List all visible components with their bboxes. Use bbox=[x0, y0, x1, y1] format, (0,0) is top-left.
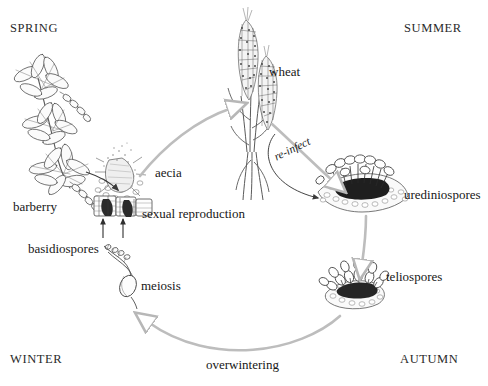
basidium-illustration bbox=[104, 244, 139, 309]
cycle-arrows bbox=[140, 108, 366, 350]
arrow-aecia-to-wheat bbox=[140, 108, 232, 176]
label-barberry: barberry bbox=[13, 200, 57, 213]
label-sexual-reproduction: sexual reproduction bbox=[142, 207, 245, 220]
aecia-illustration bbox=[94, 142, 146, 200]
season-label-winter: WINTER bbox=[10, 353, 62, 366]
life-cycle-diagram: SPRING SUMMER WINTER AUTUMN barberry aec… bbox=[0, 0, 488, 386]
urediniospores-illustration bbox=[314, 155, 408, 212]
label-basidiospores: basidiospores bbox=[28, 242, 99, 255]
label-urediniospores: urediniospores bbox=[404, 188, 481, 201]
teliospores-illustration bbox=[318, 258, 391, 309]
season-label-summer: SUMMER bbox=[404, 22, 462, 35]
season-label-spring: SPRING bbox=[10, 22, 58, 35]
season-label-autumn: AUTUMN bbox=[400, 353, 458, 366]
label-teliospores: teliospores bbox=[386, 270, 442, 283]
barberry-illustration bbox=[12, 52, 100, 211]
arrow-urediniospores-to-teliospores bbox=[362, 216, 366, 264]
label-overwintering: overwintering bbox=[206, 358, 279, 371]
label-aecia: aecia bbox=[155, 166, 182, 179]
label-wheat: wheat bbox=[269, 65, 300, 78]
arrow-overwintering bbox=[148, 316, 340, 350]
wheat-illustration bbox=[228, 7, 277, 200]
label-meiosis: meiosis bbox=[141, 279, 181, 292]
